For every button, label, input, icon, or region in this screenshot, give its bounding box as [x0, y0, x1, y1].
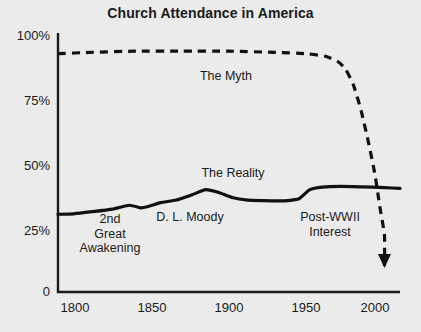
series-line-the-reality [58, 186, 400, 214]
chart-container: Church Attendance in America 100% 75% 50… [0, 0, 421, 332]
series-arrowhead-the-myth [378, 254, 391, 268]
series-line-the-myth [58, 51, 385, 266]
plot-area [0, 0, 421, 332]
